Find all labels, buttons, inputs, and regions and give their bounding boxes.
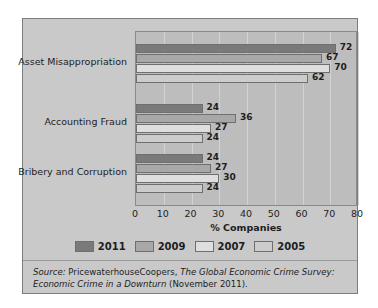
source-keyword: Source: (33, 267, 66, 277)
x-tick-label: 50 (268, 208, 280, 219)
bar-group: 24362724 (136, 104, 356, 144)
x-axis-ticks: 01020304050607080 (135, 208, 357, 222)
legend-label: 2011 (98, 241, 126, 252)
category-label-bribery-and-corruption: Bribery and Corruption (0, 166, 127, 177)
bar-row: 62 (136, 74, 356, 83)
bar-row: 30 (136, 174, 356, 183)
bar-2009[interactable] (136, 54, 322, 63)
bar-value-label: 24 (207, 152, 220, 162)
legend-label: 2007 (218, 241, 246, 252)
legend-item-2005[interactable]: 2005 (254, 241, 305, 252)
bar-value-label: 36 (240, 112, 253, 122)
x-tick-label: 0 (132, 208, 138, 219)
bar-2007[interactable] (136, 64, 330, 73)
bar-value-label: 24 (207, 102, 220, 112)
bar-value-label: 72 (340, 42, 353, 52)
bar-value-label: 27 (215, 122, 228, 132)
chart-legend: 2011200920072005 (23, 241, 357, 252)
bar-value-label: 67 (326, 52, 339, 62)
plot-area: 726770622436272424273024 (135, 31, 357, 206)
legend-label: 2009 (158, 241, 186, 252)
legend-swatch-2009 (135, 241, 154, 252)
bar-value-label: 24 (207, 132, 220, 142)
source-suffix: (November 2011). (166, 279, 247, 289)
x-tick-label: 70 (323, 208, 335, 219)
x-tick-label: 20 (184, 208, 196, 219)
source-note: Source: PricewaterhouseCoopers, The Glob… (23, 260, 357, 291)
gridline (358, 32, 359, 205)
legend-item-2009[interactable]: 2009 (135, 241, 186, 252)
x-tick-label: 10 (157, 208, 169, 219)
category-label-asset-misappropriation: Asset Misappropriation (0, 56, 127, 67)
x-tick-label: 30 (212, 208, 224, 219)
bar-row: 72 (136, 44, 356, 53)
legend-swatch-2007 (195, 241, 214, 252)
bar-2011[interactable] (136, 154, 203, 163)
chart-figure: 726770622436272424273024 Asset Misapprop… (22, 18, 358, 294)
legend-item-2011[interactable]: 2011 (75, 241, 126, 252)
bar-2011[interactable] (136, 104, 203, 113)
bar-2009[interactable] (136, 164, 211, 173)
bar-2005[interactable] (136, 74, 308, 83)
legend-swatch-2005 (254, 241, 273, 252)
bar-value-label: 30 (223, 172, 236, 182)
category-label-accounting-fraud: Accounting Fraud (0, 116, 127, 127)
bar-value-label: 24 (207, 182, 220, 192)
bar-row: 36 (136, 114, 356, 123)
bar-row: 24 (136, 184, 356, 193)
legend-swatch-2011 (75, 241, 94, 252)
legend-label: 2005 (277, 241, 305, 252)
bar-row: 24 (136, 154, 356, 163)
x-tick-label: 60 (295, 208, 307, 219)
x-axis-title: % Companies (135, 222, 357, 233)
bar-2005[interactable] (136, 184, 203, 193)
bar-value-label: 70 (334, 62, 347, 72)
bar-value-label: 62 (312, 72, 325, 82)
source-publisher: PricewaterhouseCoopers, (66, 267, 181, 277)
bar-row: 67 (136, 54, 356, 63)
bar-2007[interactable] (136, 124, 211, 133)
bar-row: 27 (136, 124, 356, 133)
bar-group: 24273024 (136, 154, 356, 194)
bar-2005[interactable] (136, 134, 203, 143)
x-tick-label: 40 (240, 208, 252, 219)
bar-row: 27 (136, 164, 356, 173)
legend-item-2007[interactable]: 2007 (195, 241, 246, 252)
bar-row: 24 (136, 134, 356, 143)
bar-2011[interactable] (136, 44, 336, 53)
bar-group: 72677062 (136, 44, 356, 84)
bar-value-label: 27 (215, 162, 228, 172)
x-tick-label: 80 (351, 208, 363, 219)
